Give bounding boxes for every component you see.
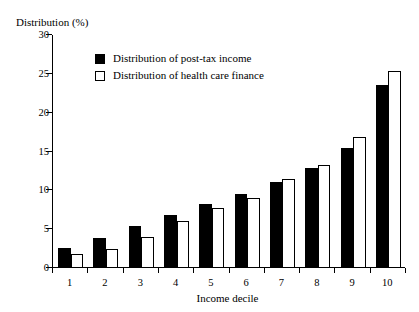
- x-tick-label: 4: [173, 276, 178, 289]
- x-tick-label: 10: [382, 276, 393, 289]
- y-tick-label: 20: [39, 106, 50, 119]
- legend-item-health-care-finance: Distribution of health care finance: [95, 67, 264, 84]
- legend-swatch-open-icon: [95, 71, 105, 81]
- bar: [71, 254, 84, 268]
- x-tick-mark: [264, 268, 265, 273]
- x-tick-label: 9: [349, 276, 354, 289]
- x-axis-title: Income decile: [197, 292, 259, 304]
- x-tick-label: 8: [314, 276, 319, 289]
- bar: [247, 198, 260, 268]
- x-tick-mark: [87, 268, 88, 273]
- bar: [177, 221, 190, 268]
- bar: [212, 208, 225, 268]
- bar: [282, 179, 295, 268]
- x-tick-mark: [229, 268, 230, 273]
- bar: [353, 137, 366, 268]
- y-tick-label: 30: [39, 28, 50, 41]
- x-tick-mark: [370, 268, 371, 273]
- x-tick-mark: [193, 268, 194, 273]
- x-tick-mark: [299, 268, 300, 273]
- bar: [376, 85, 389, 268]
- y-axis-line: [52, 35, 53, 268]
- x-axis-title-row: Income decile: [0, 292, 419, 305]
- y-tick-label: 0: [44, 261, 49, 274]
- bar: [106, 249, 119, 268]
- x-tick-mark: [123, 268, 124, 273]
- x-tick-label: 3: [138, 276, 143, 289]
- bar: [164, 215, 177, 268]
- x-tick-mark: [334, 268, 335, 273]
- bar: [141, 237, 154, 268]
- x-tick-label: 5: [208, 276, 213, 289]
- y-axis-title: Distribution (%): [16, 16, 88, 29]
- bar: [199, 204, 212, 268]
- bar: [341, 148, 354, 268]
- legend-swatch-filled-icon: [95, 54, 105, 64]
- legend-item-post-tax-income: Distribution of post-tax income: [95, 50, 264, 67]
- bar: [129, 226, 142, 268]
- y-tick-label: 10: [39, 183, 50, 196]
- bar: [58, 248, 71, 268]
- y-tick-label: 15: [39, 145, 50, 158]
- bar: [305, 168, 318, 268]
- x-tick-label: 7: [279, 276, 284, 289]
- bar: [388, 71, 401, 268]
- bar: [93, 238, 106, 268]
- x-tick-mark: [158, 268, 159, 273]
- x-tick-mark: [405, 268, 406, 273]
- legend-label: Distribution of post-tax income: [113, 52, 251, 65]
- bar: [270, 182, 283, 268]
- legend-label: Distribution of health care finance: [113, 69, 264, 82]
- bar: [235, 194, 248, 268]
- x-tick-label: 2: [102, 276, 107, 289]
- y-tick-label: 25: [39, 67, 50, 80]
- chart-figure: Distribution (%) 051015202530 1234567891…: [0, 0, 419, 312]
- y-tick-label: 5: [44, 222, 49, 235]
- x-tick-mark: [52, 268, 53, 273]
- chart-legend: Distribution of post-tax income Distribu…: [95, 50, 264, 84]
- x-tick-label: 6: [244, 276, 249, 289]
- bar: [318, 165, 331, 268]
- x-tick-label: 1: [67, 276, 72, 289]
